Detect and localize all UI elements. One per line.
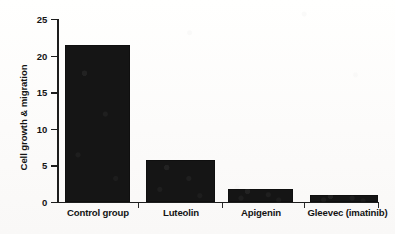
y-axis-tick-10 xyxy=(51,129,57,130)
bar-control-group xyxy=(65,45,130,201)
y-axis-tick-label-25: 25 xyxy=(7,14,47,25)
y-axis-tick-label-20: 20 xyxy=(7,50,47,61)
y-axis-tick-label-0: 0 xyxy=(7,196,47,207)
bar-luteolin xyxy=(146,160,215,202)
chart-figure: Cell growth & migration 25 20 15 10 5 0 … xyxy=(0,0,395,234)
y-axis-tick-0 xyxy=(51,202,57,203)
y-axis-tick-20 xyxy=(51,56,57,57)
y-axis-tick-5 xyxy=(51,165,57,166)
x-axis-label-gleevec-imatinib: Gleevec (imatinib) xyxy=(300,207,395,218)
y-axis-tick-15 xyxy=(51,92,57,93)
y-axis-tick-label-10: 10 xyxy=(7,123,47,134)
y-axis-tick-25 xyxy=(51,19,57,20)
bar-apigenin xyxy=(228,189,293,202)
y-axis-line xyxy=(57,19,59,203)
bar-gleevec-imatinib xyxy=(310,195,378,202)
y-axis-tick-label-15: 15 xyxy=(7,87,47,98)
x-axis-line xyxy=(57,202,379,204)
x-axis-label-control-group: Control group xyxy=(56,207,140,218)
x-axis-label-apigenin: Apigenin xyxy=(224,207,298,218)
x-axis-label-luteolin: Luteolin xyxy=(142,207,220,218)
y-axis-tick-label-5: 5 xyxy=(7,160,47,171)
bar-chart-plot-area: Cell growth & migration 25 20 15 10 5 0 … xyxy=(0,0,395,234)
